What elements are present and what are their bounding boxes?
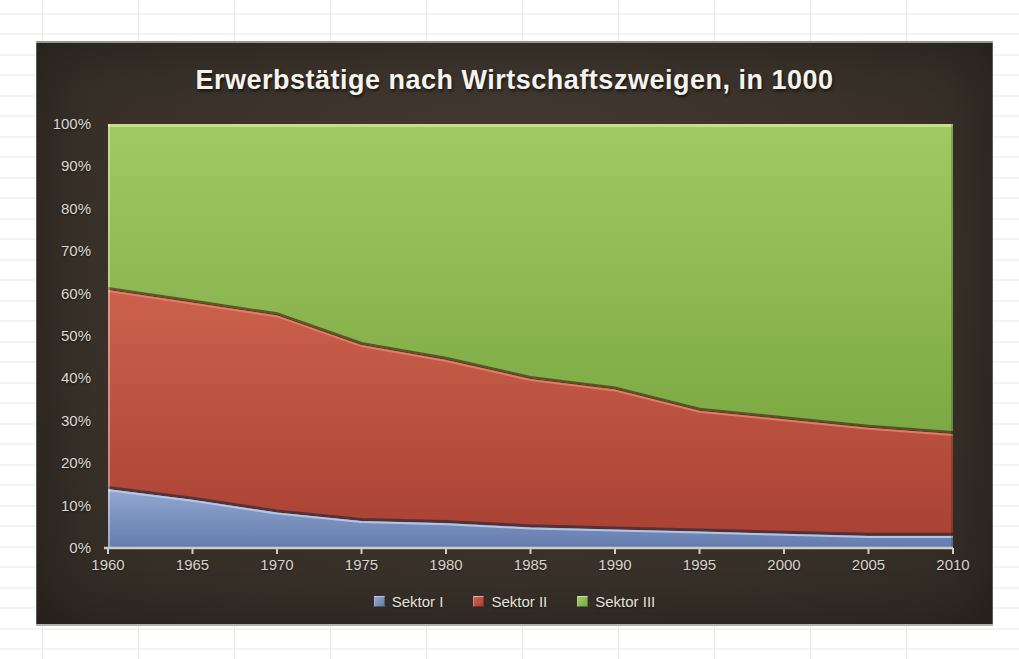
y-tick-label: 20%	[61, 454, 91, 472]
y-tick-label: 0%	[69, 539, 91, 557]
y-tick-label: 80%	[61, 200, 91, 218]
x-tick-label: 2005	[852, 556, 885, 573]
y-tick-label: 10%	[61, 497, 91, 515]
x-tick-label: 2000	[767, 556, 800, 573]
x-tick-label: 1965	[176, 556, 209, 573]
y-axis-labels: 0%10%20%30%40%50%60%70%80%90%100%	[37, 124, 99, 548]
legend-label: Sektor I	[392, 593, 444, 610]
legend-swatch-icon	[577, 596, 588, 607]
y-tick-label: 60%	[61, 285, 91, 303]
legend-swatch-icon	[374, 596, 385, 607]
legend-label: Sektor II	[491, 593, 547, 610]
x-tick-label: 1995	[683, 556, 716, 573]
x-tick-label: 1960	[91, 556, 124, 573]
plot-area	[108, 124, 953, 548]
x-tick-label: 2010	[936, 556, 969, 573]
legend-item-sektor-iii: Sektor III	[577, 593, 655, 610]
x-axis-labels: 1960196519701975198019851990199520002005…	[108, 556, 953, 578]
x-tick-label: 1980	[429, 556, 462, 573]
legend-item-sektor-i: Sektor I	[374, 593, 444, 610]
stacked-area-chart	[108, 124, 953, 548]
legend-label: Sektor III	[595, 593, 655, 610]
spreadsheet-page: { "chart": { "title": "Erwerbstätige nac…	[0, 0, 1019, 659]
x-tick-label: 1975	[345, 556, 378, 573]
y-tick-label: 30%	[61, 412, 91, 430]
y-tick-label: 100%	[53, 115, 91, 133]
y-tick-label: 70%	[61, 242, 91, 260]
y-tick-label: 50%	[61, 327, 91, 345]
x-tick-label: 1970	[260, 556, 293, 573]
x-tick-label: 1990	[598, 556, 631, 573]
chart-legend: Sektor ISektor IISektor III	[37, 593, 992, 610]
x-tick-label: 1985	[514, 556, 547, 573]
chart-title: Erwerbstätige nach Wirtschaftszweigen, i…	[37, 65, 992, 96]
chart-photo: Erwerbstätige nach Wirtschaftszweigen, i…	[36, 41, 993, 626]
legend-swatch-icon	[473, 596, 484, 607]
y-tick-label: 90%	[61, 157, 91, 175]
legend-item-sektor-ii: Sektor II	[473, 593, 547, 610]
y-tick-label: 40%	[61, 369, 91, 387]
